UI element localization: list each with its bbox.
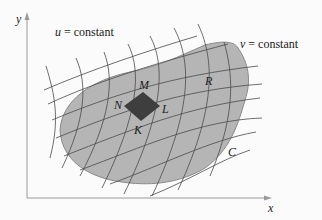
- x-axis-arrow-icon: [264, 196, 272, 201]
- v-equals-constant: = constant: [245, 37, 298, 51]
- curvilinear-grid-figure: [0, 0, 322, 220]
- vertex-m-label: M: [139, 79, 149, 91]
- v-constant-label: v = constant: [240, 38, 298, 50]
- diagram-canvas: y x u = constant v = constant R C M N L …: [0, 0, 322, 220]
- u-constant-label: u = constant: [55, 26, 114, 38]
- x-axis-label: x: [268, 202, 273, 214]
- y-axis-label: y: [16, 13, 21, 25]
- vertex-k-label: K: [134, 124, 142, 136]
- vertex-l-label: L: [162, 103, 169, 115]
- y-axis-arrow-icon: [25, 12, 30, 20]
- region-label: R: [205, 75, 212, 87]
- u-equals-constant: = constant: [61, 25, 114, 39]
- vertex-n-label: N: [114, 99, 122, 111]
- boundary-label: C: [228, 146, 236, 158]
